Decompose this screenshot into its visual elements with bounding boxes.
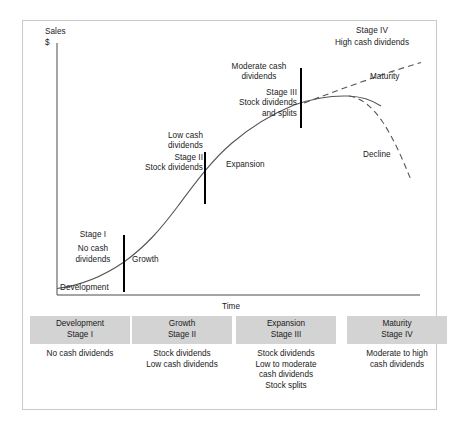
legend-body-expansion: Stock dividends Low to moderate cash div… [236, 349, 336, 391]
annotation-maturity: Maturity [370, 72, 400, 82]
low-cash-line1: Low cash [119, 131, 203, 141]
y-axis-label-currency: $ [45, 38, 50, 48]
annotation-moderate-cash-dividends: Moderate cash dividends [221, 62, 297, 83]
annotation-expansion: Expansion [226, 160, 265, 170]
legend-head-line1: Maturity [347, 319, 447, 330]
decline-dashed-curve [349, 96, 411, 180]
legend-body-development: No cash dividends [30, 349, 130, 360]
legend-column-expansion: Expansion Stage III Stock dividends Low … [236, 316, 336, 392]
legend-body-maturity: Moderate to high cash dividends [347, 349, 447, 370]
legend-body-growth: Stock dividends Low cash dividends [132, 349, 232, 370]
legend-head-line1: Expansion [236, 319, 336, 330]
stage-1-detail-line1: No cash [62, 244, 124, 254]
annotation-low-cash-dividends: Low cash dividends [119, 131, 203, 152]
legend-header-expansion: Expansion Stage III [236, 316, 336, 344]
y-axis-label-sales: Sales [45, 27, 66, 37]
stage-1-detail-line2: dividends [62, 255, 124, 265]
annotation-stage-2: Stage II Stock dividends [115, 153, 203, 174]
legend-head-line2: Stage I [30, 330, 130, 341]
legend-header-development: Development Stage I [30, 316, 130, 344]
stage-3-detail-line1: Stock dividends [199, 98, 297, 108]
annotation-stage-3: Stage III Stock dividends and splits [199, 88, 297, 119]
stage-3-detail-line2: and splits [199, 109, 297, 119]
legend-head-line2: Stage III [236, 330, 336, 341]
stage-4-title: Stage IV [310, 26, 434, 36]
annotation-growth: Growth [132, 255, 159, 265]
moderate-cash-line1: Moderate cash [221, 62, 297, 72]
legend-column-maturity: Maturity Stage IV Moderate to high cash … [347, 316, 447, 370]
maturity-dashed-line [304, 63, 421, 104]
legend-body-line: Stock dividends [236, 349, 336, 360]
legend-header-maturity: Maturity Stage IV [347, 316, 447, 344]
stage-4-detail: High cash dividends [310, 38, 434, 48]
annotation-stage-1: Stage I No cash dividends [62, 230, 124, 265]
legend-body-line: Moderate to high [347, 349, 447, 360]
stage-legend: Development Stage I No cash dividends Gr… [22, 316, 437, 408]
legend-column-development: Development Stage I No cash dividends [30, 316, 130, 360]
stage-2-detail: Stock dividends [115, 163, 203, 173]
legend-column-growth: Growth Stage II Stock dividends Low cash… [132, 316, 232, 370]
annotation-stage-4: Stage IV High cash dividends [310, 26, 434, 49]
annotation-decline: Decline [363, 150, 391, 160]
legend-head-line2: Stage IV [347, 330, 447, 341]
legend-body-line: cash dividends [347, 360, 447, 371]
legend-body-line: Low to moderate [236, 360, 336, 371]
legend-header-growth: Growth Stage II [132, 316, 232, 344]
stage-3-title: Stage III [199, 88, 297, 98]
legend-body-line: No cash dividends [30, 349, 130, 360]
figure-root: Sales $ Time Stage I No cash dividends G… [0, 0, 461, 433]
low-cash-line2: dividends [119, 141, 203, 151]
legend-body-line: cash dividends [236, 370, 336, 381]
annotation-development: Development [60, 283, 109, 293]
legend-body-line: Stock dividends [132, 349, 232, 360]
x-axis-label-time: Time [196, 302, 266, 312]
moderate-cash-line2: dividends [221, 72, 297, 82]
legend-head-line1: Growth [132, 319, 232, 330]
legend-head-line1: Development [30, 319, 130, 330]
legend-body-line: Stock splits [236, 381, 336, 392]
stage-2-title: Stage II [115, 153, 203, 163]
legend-head-line2: Stage II [132, 330, 232, 341]
legend-body-line: Low cash dividends [132, 360, 232, 371]
stage-1-title: Stage I [62, 230, 124, 240]
